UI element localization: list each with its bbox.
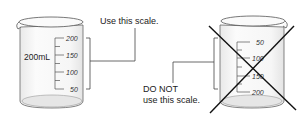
right-bracket — [173, 38, 218, 89]
left-tick-label: 100 — [66, 69, 78, 76]
right-tick-label: 100 — [252, 55, 264, 62]
beaker-rim — [19, 17, 83, 27]
right-beaker: 50 100 150 200 — [220, 16, 287, 108]
do-not-callout-line2: use this scale. — [143, 95, 200, 105]
capacity-label: 200mL — [24, 52, 50, 62]
right-tick-label: 200 — [251, 89, 264, 96]
beaker-rim — [221, 16, 285, 26]
beaker-scale-diagram: 200 150 100 50 200mL Use this scale. 50 … — [0, 0, 300, 124]
do-not-callout-line1: DO NOT — [143, 84, 179, 94]
left-beaker: 200 150 100 50 200mL — [17, 17, 83, 108]
beaker-bottom — [22, 95, 82, 107]
use-scale-callout: Use this scale. — [100, 16, 159, 26]
beaker-bottom — [222, 95, 282, 107]
left-tick-label: 50 — [70, 86, 78, 93]
left-tick-label: 150 — [66, 52, 78, 59]
left-bracket — [86, 28, 135, 89]
right-tick-label: 50 — [256, 39, 264, 46]
left-tick-label: 200 — [65, 35, 78, 42]
